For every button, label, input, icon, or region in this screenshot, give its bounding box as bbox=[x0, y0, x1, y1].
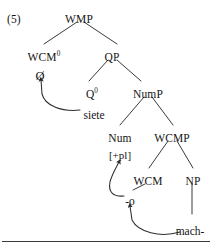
tree-node-label: WMP bbox=[65, 13, 93, 25]
footer-rule bbox=[2, 241, 210, 242]
example-number: (5) bbox=[7, 14, 21, 26]
tree-branch-wcmp-wcm bbox=[149, 141, 168, 168]
tree-node-label: WCMP bbox=[154, 132, 190, 144]
tree-terminal-siete: siete bbox=[83, 110, 104, 122]
movement-arrow-suffix-to-num bbox=[110, 162, 124, 196]
tree-node-label: WCM bbox=[28, 51, 57, 63]
tree-node-label: WCM bbox=[133, 175, 162, 187]
tree-branch-nump-wcmp bbox=[152, 97, 173, 125]
tree-node-wcm0: WCM0 bbox=[28, 52, 61, 64]
tree-node-q0: Q0 bbox=[86, 89, 98, 101]
tree-node-bar-level: 0 bbox=[57, 50, 61, 58]
tree-terminal-mach: mach- bbox=[176, 226, 205, 238]
tree-node-wmp: WMP bbox=[65, 14, 93, 26]
tree-node-num: Num bbox=[108, 133, 131, 145]
tree-node-label: Num bbox=[108, 132, 131, 144]
tree-node-np: NP bbox=[186, 176, 201, 188]
tree-node-label: QP bbox=[105, 51, 120, 63]
movement-arrow-mach-to-suffix bbox=[130, 206, 180, 234]
tree-branch-qp-nump bbox=[117, 60, 141, 81]
tree-feature-num-feat: [+pl] bbox=[109, 150, 131, 161]
syntax-tree-figure: (5) WMPWCM0QPQ0NumPNumWCMPWCMNP [+pl] Øs… bbox=[0, 0, 213, 249]
tree-node-bar-level: 0 bbox=[94, 87, 98, 95]
tree-branch-wcmp-np bbox=[177, 141, 193, 168]
tree-terminal-suffix-o: -o bbox=[125, 196, 135, 208]
tree-lines-svg bbox=[0, 0, 213, 249]
tree-node-wcmp: WCMP bbox=[154, 133, 190, 145]
tree-node-label: NumP bbox=[133, 88, 163, 100]
tree-branch-nump-num bbox=[120, 97, 144, 125]
tree-terminal-null-wcm: Ø bbox=[35, 70, 44, 83]
tree-node-wcm: WCM bbox=[133, 176, 162, 188]
movement-arrow-siete-to-null bbox=[41, 80, 80, 110]
tree-node-label: NP bbox=[186, 175, 201, 187]
tree-node-qp: QP bbox=[105, 52, 120, 64]
tree-node-nump: NumP bbox=[133, 89, 163, 101]
